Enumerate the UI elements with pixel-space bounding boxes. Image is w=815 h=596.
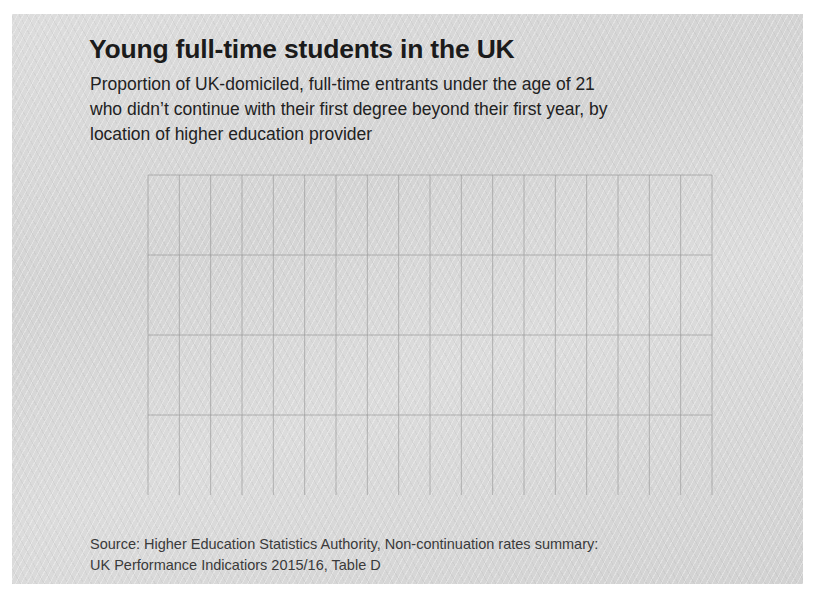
line-chart xyxy=(12,14,803,584)
chart-canvas xyxy=(12,14,803,584)
source-line-1: Source: Higher Education Statistics Auth… xyxy=(90,534,598,555)
poster-card: Young full-time students in the UK Propo… xyxy=(12,14,803,584)
source-line-2: UK Performance Indicatiors 2015/16, Tabl… xyxy=(90,555,598,576)
source-note: Source: Higher Education Statistics Auth… xyxy=(90,534,598,576)
